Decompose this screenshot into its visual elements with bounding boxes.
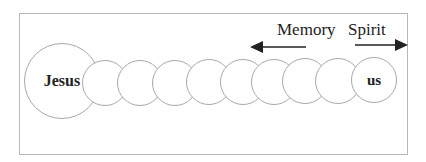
memory-arrow-icon (250, 41, 306, 53)
spirit-label: Spirit (348, 20, 386, 40)
spirit-arrow-icon (355, 39, 408, 51)
memory-label: Memory (277, 20, 336, 40)
